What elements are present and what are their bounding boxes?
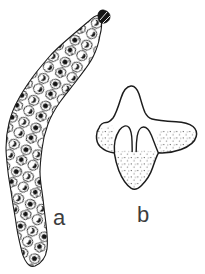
panel-a-label: a xyxy=(53,207,65,229)
figure-page: a b xyxy=(0,0,205,274)
panel-b-label: b xyxy=(137,204,149,226)
right-wing-stipple xyxy=(158,130,196,152)
panel-b-drawing xyxy=(96,86,196,189)
egg-mass-dark-tip xyxy=(98,10,110,23)
scientific-illustration xyxy=(0,0,205,274)
